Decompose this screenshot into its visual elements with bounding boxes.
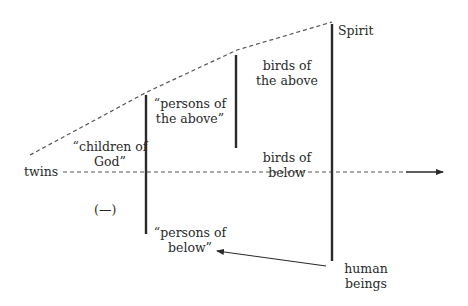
label-birds-below-line1: birds of xyxy=(246,150,328,165)
label-persons-below-line2: below” xyxy=(150,240,230,255)
label-persons-of-the-above: “persons of the above” xyxy=(150,96,230,126)
label-twins: twins xyxy=(24,164,58,179)
human-to-persons-below-arrow xyxy=(217,251,326,266)
label-human-beings: human beings xyxy=(337,261,395,291)
diagram-canvas: Spirit birds of the above “persons of th… xyxy=(0,0,468,306)
label-human-line1: human xyxy=(337,261,395,276)
label-spirit-text: Spirit xyxy=(338,23,374,38)
label-neutral: (—) xyxy=(94,202,116,217)
label-birds-below-line2: below xyxy=(246,165,328,180)
label-birds-above-line2: the above xyxy=(246,73,328,88)
upper-dashed-envelope xyxy=(30,22,332,155)
label-children-line2: God” xyxy=(70,154,150,169)
label-persons-above-line1: “persons of xyxy=(150,96,230,111)
label-spirit: Spirit xyxy=(338,23,374,38)
label-birds-of-the-above: birds of the above xyxy=(246,58,328,88)
label-birds-above-line1: birds of xyxy=(246,58,328,73)
label-birds-of-below: birds of below xyxy=(246,150,328,180)
label-persons-above-line2: the above” xyxy=(150,111,230,126)
label-persons-of-below: “persons of below” xyxy=(150,225,230,255)
label-children-of-god: “children of God” xyxy=(70,139,150,169)
label-human-line2: beings xyxy=(337,276,395,291)
label-children-line1: “children of xyxy=(70,139,150,154)
label-persons-below-line1: “persons of xyxy=(150,225,230,240)
label-twins-text: twins xyxy=(24,164,58,179)
label-neutral-text: (—) xyxy=(94,202,116,217)
